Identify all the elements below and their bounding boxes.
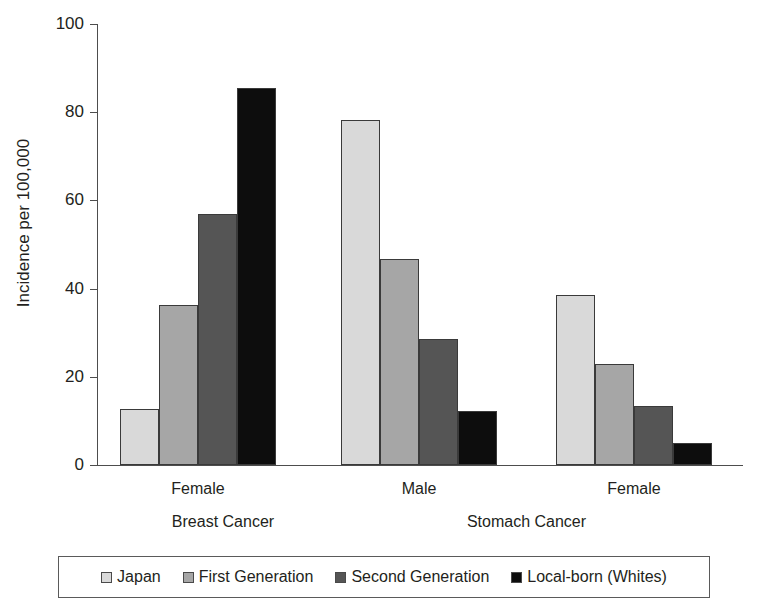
x-group-label: Female — [607, 480, 660, 498]
legend-label: First Generation — [199, 569, 314, 585]
y-tick-label: 0 — [18, 456, 84, 473]
bar-first-generation-0 — [159, 305, 198, 465]
chart-legend: JapanFirst GenerationSecond GenerationLo… — [58, 556, 710, 598]
legend-item: Japan — [101, 569, 161, 585]
x-category-label: Stomach Cancer — [467, 513, 586, 531]
y-tick-mark — [90, 200, 97, 201]
legend-swatch-icon — [511, 572, 522, 583]
bar-first-generation-2 — [595, 364, 634, 465]
legend-label: Japan — [117, 569, 161, 585]
bar-japan-0 — [120, 409, 159, 465]
y-tick-mark — [90, 289, 97, 290]
bar-local-born-whites--0 — [237, 88, 276, 465]
bar-second-generation-0 — [198, 214, 237, 465]
legend-swatch-icon — [183, 572, 194, 583]
x-group-label: Male — [402, 480, 437, 498]
bar-japan-1 — [341, 120, 380, 465]
y-tick-mark — [90, 24, 97, 25]
x-group-label: Female — [171, 480, 224, 498]
bar-second-generation-2 — [634, 406, 673, 465]
legend-swatch-icon — [101, 572, 112, 583]
x-axis-line — [97, 465, 743, 466]
legend-label: Second Generation — [351, 569, 489, 585]
bar-first-generation-1 — [380, 259, 419, 465]
bar-local-born-whites--1 — [458, 411, 497, 465]
x-category-label: Breast Cancer — [172, 513, 274, 531]
legend-label: Local-born (Whites) — [527, 569, 667, 585]
legend-item: Second Generation — [335, 569, 489, 585]
chart-figure: 020406080100 Incidence per 100,000 Femal… — [0, 0, 769, 615]
legend-item: Local-born (Whites) — [511, 569, 667, 585]
legend-swatch-icon — [335, 572, 346, 583]
bar-local-born-whites--2 — [673, 443, 712, 465]
legend-item: First Generation — [183, 569, 314, 585]
y-tick-mark — [90, 377, 97, 378]
bars-layer — [97, 24, 743, 465]
y-tick-mark — [90, 112, 97, 113]
bar-second-generation-1 — [419, 339, 458, 465]
y-tick-mark — [90, 465, 97, 466]
bar-japan-2 — [556, 295, 595, 465]
y-axis-title: Incidence per 100,000 — [14, 13, 34, 433]
